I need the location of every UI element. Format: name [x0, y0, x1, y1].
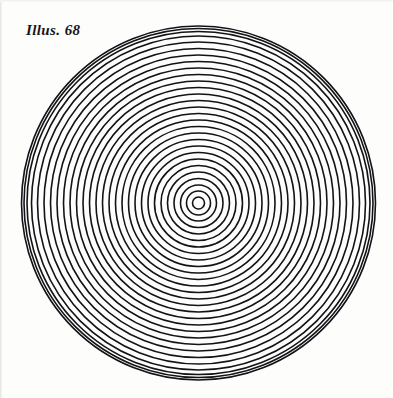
ring-9	[142, 146, 256, 260]
concentric-circles-svg	[0, 0, 393, 398]
ring-14	[109, 114, 288, 293]
ring-1	[193, 197, 205, 209]
concentric-circles-figure	[0, 0, 393, 398]
ring-15	[103, 107, 295, 299]
ring-2	[187, 191, 211, 215]
ring-23	[51, 55, 347, 351]
ring-group	[22, 26, 376, 380]
figure-page: Illus. 68	[0, 0, 393, 398]
ring-27	[27, 32, 370, 375]
ring-21	[64, 68, 334, 338]
ring-8	[148, 153, 249, 254]
ring-25	[38, 42, 360, 364]
figure-caption: Illus. 68	[26, 22, 80, 39]
ring-5	[168, 172, 230, 234]
ring-4	[174, 179, 223, 228]
ring-11	[129, 133, 269, 273]
ring-19	[77, 81, 321, 325]
ring-18	[83, 88, 314, 319]
ring-16	[96, 101, 301, 306]
ring-12	[122, 127, 275, 280]
ring-26	[32, 36, 366, 370]
ring-13	[116, 120, 282, 286]
ring-6	[161, 166, 236, 241]
ring-24	[44, 49, 353, 358]
ring-22	[57, 62, 340, 345]
